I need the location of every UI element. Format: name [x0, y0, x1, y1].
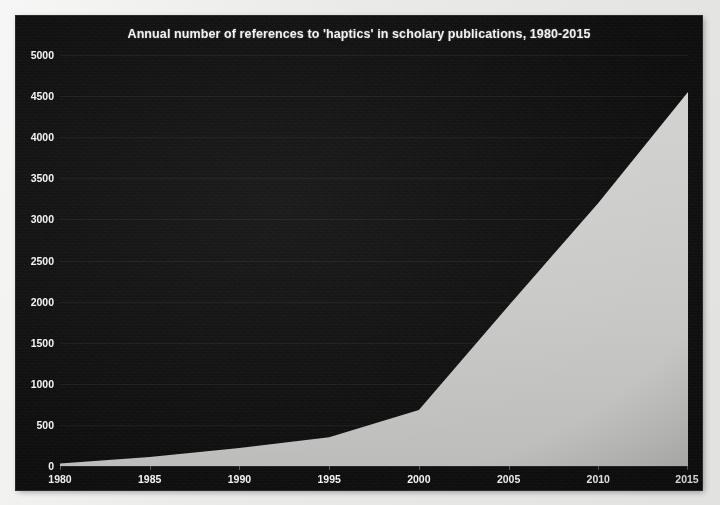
y-axis-label-1500: 1500: [31, 337, 54, 349]
x-tick-2000: [419, 466, 420, 470]
x-axis-label-2015: 2015: [675, 473, 698, 485]
y-axis-label-4000: 4000: [31, 131, 54, 143]
y-axis-label-5000: 5000: [31, 49, 54, 61]
y-axis-label-500: 500: [36, 419, 54, 431]
plot-area: 0500100015002000250030003500400045005000…: [60, 55, 688, 466]
y-axis-label-3500: 3500: [31, 172, 54, 184]
area-fill-path: [60, 92, 688, 466]
x-tick-1995: [329, 466, 330, 470]
x-axis-label-1995: 1995: [317, 473, 340, 485]
screenshot-page: Annual number of references to 'haptics'…: [0, 0, 720, 505]
y-axis-label-0: 0: [48, 460, 54, 472]
x-tick-2010: [598, 466, 599, 470]
x-axis-label-1980: 1980: [48, 473, 71, 485]
y-axis-label-3000: 3000: [31, 213, 54, 225]
x-tick-1985: [150, 466, 151, 470]
x-axis-label-2005: 2005: [497, 473, 520, 485]
x-tick-2005: [509, 466, 510, 470]
x-tick-1990: [239, 466, 240, 470]
gridline-y-0: [60, 466, 688, 467]
area-series-haptics: [60, 55, 688, 466]
x-tick-2015: [687, 466, 688, 470]
y-axis-label-1000: 1000: [31, 378, 54, 390]
chart-panel: Annual number of references to 'haptics'…: [16, 16, 702, 490]
y-axis-label-2000: 2000: [31, 296, 54, 308]
x-axis-label-2010: 2010: [587, 473, 610, 485]
y-axis-label-2500: 2500: [31, 255, 54, 267]
x-axis-label-1985: 1985: [138, 473, 161, 485]
x-tick-1980: [60, 466, 61, 470]
y-axis-label-4500: 4500: [31, 90, 54, 102]
x-axis-label-1990: 1990: [228, 473, 251, 485]
x-axis-label-2000: 2000: [407, 473, 430, 485]
chart-title: Annual number of references to 'haptics'…: [16, 27, 702, 41]
